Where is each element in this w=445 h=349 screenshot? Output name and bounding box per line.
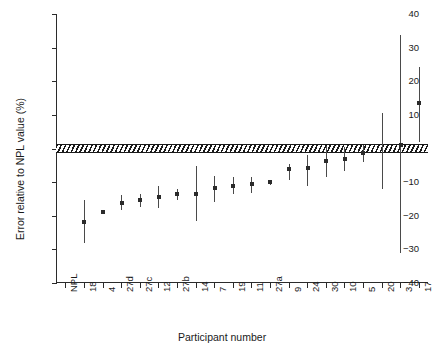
- y-tick: [52, 216, 57, 217]
- x-tick-label: 17: [423, 281, 433, 292]
- y-tick: [52, 81, 57, 82]
- x-tick-label: 24: [311, 281, 321, 292]
- x-tick: [289, 283, 290, 288]
- x-tick-label: 27d: [125, 276, 135, 292]
- x-tick-label: 27c: [144, 277, 154, 292]
- x-tick-label: 18: [88, 281, 98, 292]
- x-tick: [140, 283, 141, 288]
- data-point: [213, 186, 217, 190]
- data-point: [138, 198, 142, 202]
- x-tick: [344, 283, 345, 288]
- x-tick-label: 12: [162, 281, 172, 292]
- x-tick: [270, 283, 271, 288]
- error-bar: [307, 155, 308, 186]
- x-tick-label: NPL: [69, 274, 79, 292]
- x-tick: [214, 283, 215, 288]
- y-tick-label: 20: [379, 76, 419, 86]
- x-tick-label: 27b: [181, 276, 191, 292]
- x-tick: [84, 283, 85, 288]
- x-tick: [363, 283, 364, 288]
- data-point: [175, 192, 179, 196]
- x-tick: [419, 283, 420, 288]
- x-tick: [400, 283, 401, 288]
- data-point: [399, 143, 403, 147]
- y-tick: [52, 249, 57, 250]
- y-tick-label: −20: [379, 211, 419, 221]
- data-point: [268, 180, 272, 184]
- x-tick: [158, 283, 159, 288]
- data-point: [101, 210, 105, 214]
- x-tick-label: 19: [237, 281, 247, 292]
- y-tick-label: 10: [379, 110, 419, 120]
- x-tick: [121, 283, 122, 288]
- data-point: [120, 201, 124, 205]
- data-point: [82, 220, 86, 224]
- x-tick-label: 30: [330, 281, 340, 292]
- x-tick: [251, 283, 252, 288]
- x-tick-label: 20: [386, 281, 396, 292]
- y-tick-label: −30: [379, 244, 419, 254]
- x-tick-label: 10: [348, 281, 358, 292]
- error-bar: [382, 113, 383, 189]
- x-tick-label: 5: [367, 287, 377, 292]
- plot-area: 403020100−10−20−30−40 NPL18427d27c1227b1…: [56, 14, 428, 283]
- reference-band: [56, 144, 428, 152]
- y-tick: [52, 115, 57, 116]
- x-tick: [65, 283, 66, 288]
- y-tick-label: 40: [379, 9, 419, 19]
- y-tick-label: 30: [379, 43, 419, 53]
- y-tick: [52, 182, 57, 183]
- x-tick-label: 14: [200, 281, 210, 292]
- x-tick-label: 4: [107, 287, 117, 292]
- x-tick: [177, 283, 178, 288]
- data-point: [417, 101, 421, 105]
- chart-figure: Error relative to NPL value (%) Particip…: [0, 0, 445, 349]
- data-point: [343, 157, 347, 161]
- x-tick: [233, 283, 234, 288]
- data-point: [361, 151, 365, 155]
- x-tick-label: 9: [293, 287, 303, 292]
- y-tick-label: −10: [379, 177, 419, 187]
- x-tick: [307, 283, 308, 288]
- x-tick: [326, 283, 327, 288]
- data-point: [250, 182, 254, 186]
- data-point: [231, 184, 235, 188]
- x-tick: [382, 283, 383, 288]
- x-tick-label: 3: [404, 287, 414, 292]
- data-point: [157, 195, 161, 199]
- y-tick: [52, 48, 57, 49]
- y-tick: [52, 283, 57, 284]
- data-point: [194, 192, 198, 196]
- x-tick-label: 11: [255, 282, 265, 292]
- data-point: [287, 167, 291, 171]
- data-point: [324, 159, 328, 163]
- x-axis-title: Participant number: [178, 331, 266, 343]
- y-axis-title: Error relative to NPL value (%): [14, 98, 26, 240]
- x-tick-label: 7: [218, 287, 228, 292]
- x-tick-label: 27a: [274, 276, 284, 292]
- y-tick: [52, 14, 57, 15]
- x-tick: [103, 283, 104, 288]
- x-tick: [196, 283, 197, 288]
- data-point: [306, 166, 310, 170]
